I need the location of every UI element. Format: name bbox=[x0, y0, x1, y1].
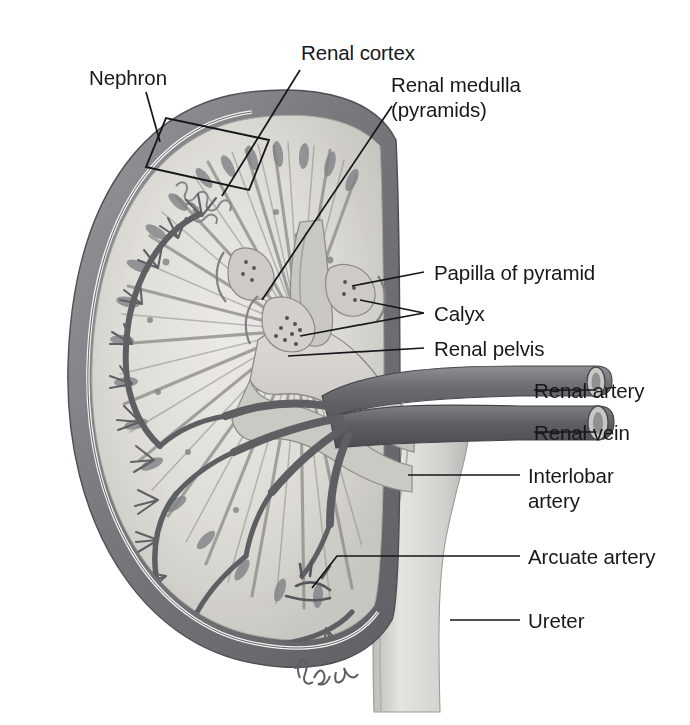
label-renal-medulla: Renal medulla bbox=[391, 72, 521, 97]
kidney-illustration bbox=[0, 0, 690, 725]
label-calyx: Calyx bbox=[434, 301, 485, 326]
label-nephron: Nephron bbox=[89, 65, 167, 90]
label-papilla-of-pyramid: Papilla of pyramid bbox=[434, 260, 595, 285]
label-renal-pelvis: Renal pelvis bbox=[434, 336, 544, 361]
label-renal-medulla-sub: (pyramids) bbox=[391, 97, 487, 122]
label-arcuate-artery: Arcuate artery bbox=[528, 544, 655, 569]
kidney-diagram: Nephron Renal cortex Renal medulla (pyra… bbox=[0, 0, 690, 725]
label-ureter: Ureter bbox=[528, 608, 584, 633]
label-renal-vein: Renal vein bbox=[534, 420, 630, 445]
label-renal-cortex: Renal cortex bbox=[301, 40, 415, 65]
label-interlobar-artery: Interlobar bbox=[528, 463, 614, 488]
label-interlobar-artery-sub: artery bbox=[528, 488, 580, 513]
label-renal-artery: Renal artery bbox=[534, 378, 644, 403]
